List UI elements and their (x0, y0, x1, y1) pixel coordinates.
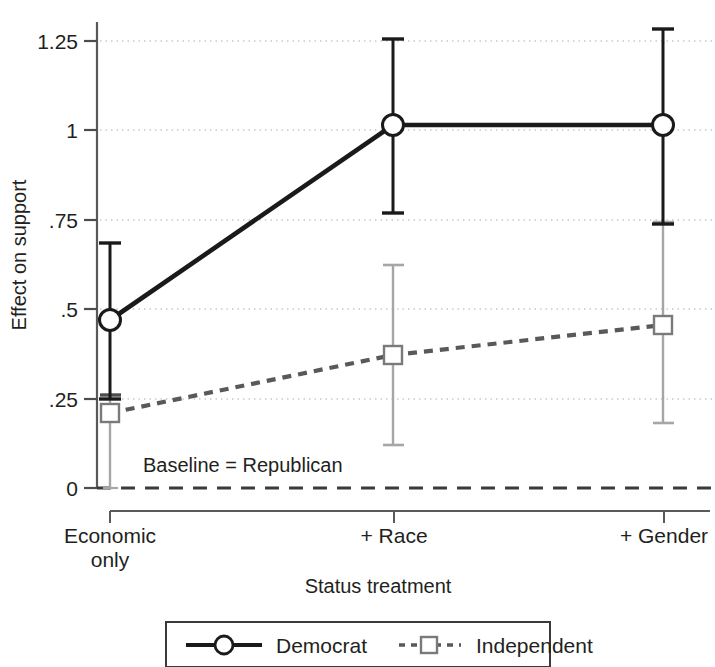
democrat-data-point-1 (100, 310, 121, 331)
democrat-data-point-2 (383, 115, 404, 136)
effect-on-support-line-chart: 1.25 1 .75 .5 .25 0 Effect on support Ba… (0, 0, 715, 667)
open-square-icon (421, 637, 437, 653)
legend-label-independent: Independent (476, 634, 593, 657)
x-label-economic-only-line1: Economic (64, 524, 156, 547)
y-axis-title: Effect on support (8, 179, 30, 330)
independent-data-point-1 (101, 404, 119, 422)
y-tick-label-1-00: 1 (66, 119, 78, 142)
independent-data-point-2 (384, 346, 402, 364)
x-label-race: + Race (360, 524, 427, 547)
y-tick-label-0-75: .75 (49, 209, 78, 232)
legend-item-independent[interactable]: Independent (399, 634, 593, 657)
y-tick-label-0-00: 0 (66, 477, 78, 500)
y-tick-label-1-25: 1.25 (37, 30, 78, 53)
y-tick-label-0-25: .25 (49, 388, 78, 411)
legend-label-democrat: Democrat (276, 634, 367, 657)
chart-figure: 1.25 1 .75 .5 .25 0 Effect on support Ba… (0, 0, 715, 667)
x-label-economic-only-line2: only (91, 548, 130, 571)
x-axis-title: Status treatment (305, 575, 452, 597)
democrat-data-point-3 (653, 115, 674, 136)
open-circle-icon (215, 636, 233, 654)
independent-data-point-3 (654, 316, 672, 334)
y-tick-label-0-50: .5 (60, 298, 78, 321)
baseline-annotation: Baseline = Republican (143, 454, 343, 476)
x-label-gender: + Gender (620, 524, 708, 547)
